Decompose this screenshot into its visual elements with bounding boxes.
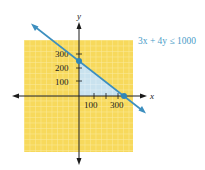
x-axis-label: x bbox=[149, 91, 154, 101]
x-tick-300: 300 bbox=[110, 100, 124, 110]
x-tick-100: 100 bbox=[84, 100, 98, 110]
inequality-graph: y x 300 200 100 100 300 bbox=[0, 0, 205, 170]
inequality-label: 3x + 4y ≤ 1000 bbox=[138, 36, 196, 46]
y-tick-100: 100 bbox=[55, 77, 69, 87]
y-tick-300: 300 bbox=[55, 49, 69, 59]
y-intercept-point bbox=[76, 58, 82, 64]
y-axis-label: y bbox=[76, 11, 81, 21]
x-intercept-point bbox=[121, 93, 127, 99]
y-tick-200: 200 bbox=[55, 63, 69, 73]
